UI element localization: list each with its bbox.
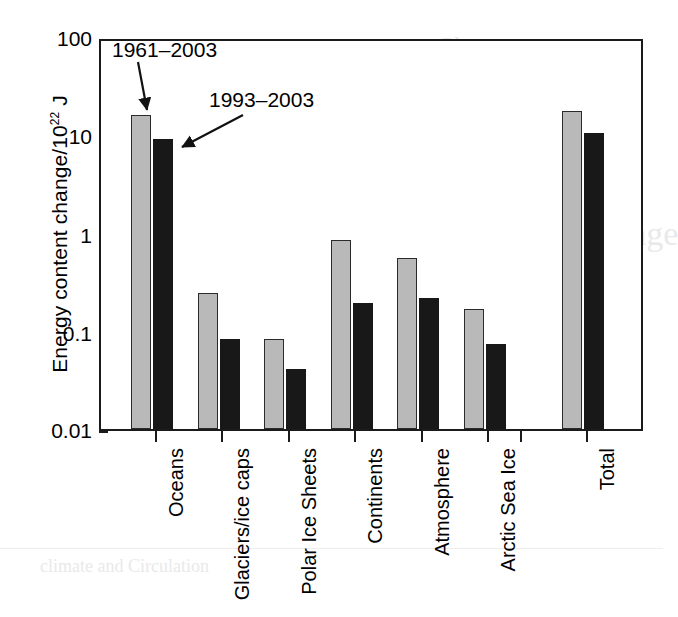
bar-arctic-sea-ice-1993-2003 (486, 344, 506, 429)
bar-oceans-1993-2003 (153, 139, 173, 429)
y-tick-mark-0.01 (99, 431, 108, 433)
x-tick-mark-empty-slot (520, 431, 522, 442)
x-axis-label-polar-ice-sheets: Polar Ice Sheets (298, 448, 321, 595)
bar-polar-ice-sheets-1961-2003 (264, 339, 284, 429)
annotation-label-1961-2003: 1961–2003 (112, 38, 217, 62)
x-tick-mark-continents (354, 431, 356, 442)
bar-oceans-1961-2003 (131, 115, 151, 429)
y-tick-label-0.1: 0.1 (0, 322, 92, 346)
y-tick-label-1: 1 (0, 224, 92, 248)
x-axis-label-arctic-sea-ice: Arctic Sea Ice (497, 448, 520, 571)
bar-continents-1961-2003 (331, 240, 351, 429)
bar-arctic-sea-ice-1961-2003 (464, 309, 484, 429)
bar-total-1961-2003 (562, 111, 582, 429)
x-tick-mark-arctic-sea-ice (487, 431, 489, 442)
bar-atmosphere-1993-2003 (419, 298, 439, 429)
bar-glaciers-1993-2003 (220, 339, 240, 429)
x-axis-label-total: Total (596, 448, 619, 490)
bar-polar-ice-sheets-1993-2003 (286, 369, 306, 429)
x-tick-mark-atmosphere (421, 431, 423, 442)
y-tick-labels: 100 10 1 0.1 0.01 (0, 0, 92, 617)
y-tick-label-10: 10 (0, 125, 92, 149)
x-axis-label-glaciers: Glaciers/ice caps (231, 448, 254, 600)
x-tick-mark-polar-ice-sheets (288, 431, 290, 442)
annotation-label-1993-2003: 1993–2003 (209, 88, 314, 112)
x-tick-mark-total (586, 431, 588, 442)
x-tick-mark-oceans (155, 431, 157, 442)
bar-total-1993-2003 (584, 133, 604, 429)
x-tick-mark-glaciers (221, 431, 223, 442)
x-axis-label-atmosphere: Atmosphere (431, 448, 454, 556)
plot-area (99, 39, 643, 431)
bar-continents-1993-2003 (353, 303, 373, 429)
y-tick-label-0.01: 0.01 (0, 419, 92, 443)
bar-atmosphere-1961-2003 (397, 258, 417, 429)
x-axis-label-oceans: Oceans (165, 448, 188, 517)
x-axis-label-continents: Continents (364, 448, 387, 544)
bar-glaciers-1961-2003 (198, 293, 218, 429)
y-tick-label-100: 100 (0, 27, 92, 51)
